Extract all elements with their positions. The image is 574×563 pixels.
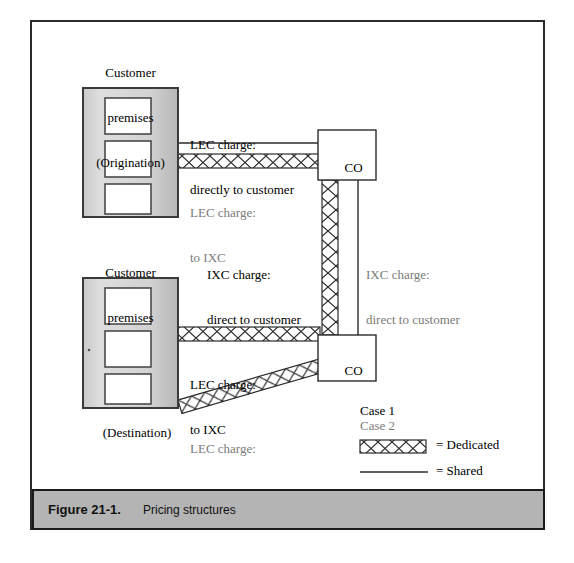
destination-building-title: Customer premises [78,236,183,356]
figure-stage: Customer premises (Origination) Customer… [0,0,574,563]
legend-dedicated-label: = Dedicated [436,438,499,453]
annotation-ixc-direct-right: IXC charge: direct to customer [366,238,460,358]
destination-title-line3: (Destination) [103,425,172,440]
legend-case2-label: Case 2 [360,419,395,434]
destination-title-line1: Customer [78,266,183,281]
destination-building-subtitle: (Destination) [78,411,183,456]
legend-shared-label: = Shared [436,464,483,479]
annotation-ixc-direct-right-line1: IXC charge: [366,268,460,283]
annotation-lec-to-ixc-mid-line1: LEC charge: [190,378,256,393]
figure-caption-bar: Figure 21-1. Pricing structures [32,489,545,530]
annotation-lec-direct-top-line1: LEC charge: [190,138,294,153]
link-ixc-dedicated-vertical [322,180,338,335]
annotation-lec-to-ixc-top-line1: LEC charge: [190,206,256,221]
annotation-ixc-direct-left-line2: direct to customer [207,313,301,328]
origination-building-title: Customer premises (Origination) [83,36,178,200]
annotation-ixc-direct-left: IXC charge: direct to customer [207,238,301,358]
figure-title: Pricing structures [143,503,236,517]
legend-dedicated-swatch [360,440,426,453]
figure-number: Figure 21-1. [48,502,121,517]
legend-case1-label: Case 1 [360,404,395,419]
annotation-lec-to-ixc-bottom-line1: LEC charge: [190,442,256,457]
co-top-label: CO [318,146,376,191]
annotation-ixc-direct-right-line2: direct to customer [366,313,460,328]
origination-title-line1: Customer [83,66,178,81]
destination-title-line2: premises [78,311,183,326]
co-bottom-text: CO [344,363,362,378]
co-top-text: CO [344,160,362,175]
origination-title-line3: (Origination) [83,156,178,171]
annotation-ixc-direct-left-line1: IXC charge: [207,268,301,283]
origination-title-line2: premises [83,111,178,126]
